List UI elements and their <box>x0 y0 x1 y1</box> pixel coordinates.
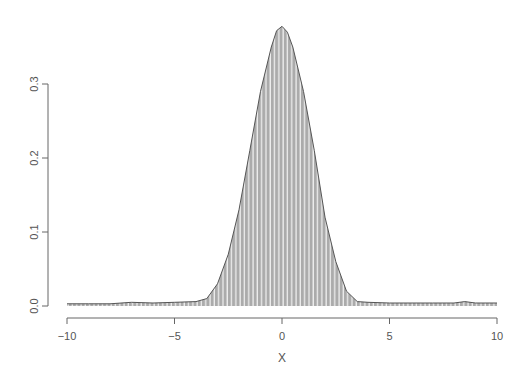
plot-area <box>67 26 497 306</box>
x-tick-label: −5 <box>168 330 181 342</box>
y-tick-label: 0.0 <box>28 298 40 313</box>
x-tick-label: −10 <box>58 330 77 342</box>
x-tick-label: 0 <box>279 330 285 342</box>
y-tick-label: 0.3 <box>28 76 40 91</box>
x-tick-label: 10 <box>491 330 503 342</box>
x-tick-label: 5 <box>386 330 392 342</box>
density-chart: 0.00.10.20.3 −10−50510 X <box>0 0 530 384</box>
x-axis: −10−50510 <box>58 318 503 342</box>
density-fill <box>67 26 497 306</box>
y-axis: 0.00.10.20.3 <box>28 76 48 313</box>
y-tick-label: 0.1 <box>28 224 40 239</box>
y-tick-label: 0.2 <box>28 150 40 165</box>
x-axis-title: X <box>278 351 286 365</box>
